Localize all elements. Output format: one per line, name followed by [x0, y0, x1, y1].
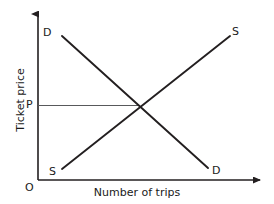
supply-demand-chart: D S S D P O Number of trips Ticket price	[0, 0, 274, 204]
supply-curve-label-top: S	[232, 26, 239, 37]
demand-curve	[62, 36, 208, 168]
y-axis-title: Ticket price	[14, 40, 27, 160]
demand-curve-label-bottom: D	[212, 165, 220, 176]
x-axis-title: Number of trips	[0, 186, 274, 199]
supply-curve-label-bottom: S	[49, 166, 56, 177]
supply-curve	[62, 36, 230, 169]
demand-curve-label-top: D	[43, 27, 51, 38]
